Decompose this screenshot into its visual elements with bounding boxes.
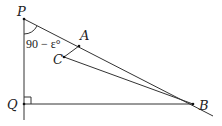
label-p: P [16, 4, 26, 19]
right-angle-marker [24, 97, 31, 104]
label-a: A [79, 28, 89, 43]
label-b: B [198, 98, 209, 113]
point-q [23, 103, 26, 106]
angle-label: 90 − ε° [26, 37, 61, 51]
line-cb [64, 57, 193, 104]
point-c [63, 56, 66, 59]
label-q: Q [7, 97, 18, 112]
point-a [78, 45, 81, 48]
point-b [192, 103, 195, 106]
line-ac [64, 46, 79, 57]
angle-arc-p [24, 26, 37, 34]
label-c: C [53, 52, 63, 67]
geometry-diagram: P Q B A C 90 − ε° [0, 0, 222, 126]
